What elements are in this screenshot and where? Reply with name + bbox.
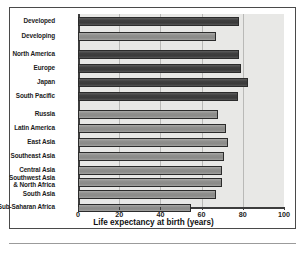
category-label-southwest-asia-north-africa: Southwest Asia & North Africa — [9, 174, 55, 188]
plot-wrapper: Developed Developing North America Europ… — [10, 8, 295, 228]
category-label-developed: Developed — [24, 17, 55, 24]
category-label-russia: Russia — [35, 110, 55, 117]
bar-row — [78, 190, 284, 199]
bar-central-asia — [78, 166, 222, 175]
category-label-north-america: North America — [13, 50, 56, 57]
category-label-sub-saharan-africa: Sub-Saharan Africa — [0, 203, 55, 210]
bar-latin-america — [78, 124, 226, 133]
bar-row — [78, 152, 284, 161]
bar-row — [78, 178, 284, 187]
bar-row — [78, 17, 284, 26]
bar-row — [78, 78, 284, 87]
bar-japan — [78, 78, 248, 87]
bar-developed — [78, 17, 239, 26]
category-label-developing: Developing — [22, 32, 55, 39]
category-label-south-pacific: South Pacific — [16, 92, 55, 99]
bar-row — [78, 92, 284, 101]
bar-southwest-asia-north-africa — [78, 178, 222, 187]
bar-sub-saharan-africa — [78, 204, 191, 212]
category-label-east-asia: East Asia — [27, 138, 55, 145]
category-label-latin-america: Latin America — [14, 124, 55, 131]
category-label-central-asia: Central Asia — [19, 166, 55, 173]
bar-row — [78, 50, 284, 59]
x-axis-title: Life expectancy at birth (years) — [10, 218, 297, 227]
bar-east-asia — [78, 138, 228, 147]
chart-figure: Developed Developing North America Europ… — [9, 7, 296, 229]
bar-south-asia — [78, 190, 216, 199]
category-label-south-asia: South Asia — [23, 190, 55, 197]
bar-row — [78, 204, 284, 212]
category-label-europe: Europe — [34, 64, 55, 71]
bar-southeast-asia — [78, 152, 224, 161]
bar-row — [78, 138, 284, 147]
bar-row — [78, 32, 284, 41]
page-divider-rule — [9, 243, 296, 244]
category-label-southeast-asia: Southeast Asia — [10, 152, 55, 159]
bar-developing — [78, 32, 216, 41]
bar-north-america — [78, 50, 239, 59]
bar-russia — [78, 110, 218, 119]
bar-europe — [78, 64, 241, 73]
category-label-japan: Japan — [37, 78, 55, 85]
bar-row — [78, 64, 284, 73]
bar-south-pacific — [78, 92, 238, 101]
bar-row — [78, 166, 284, 175]
bar-row — [78, 124, 284, 133]
bar-row — [78, 110, 284, 119]
